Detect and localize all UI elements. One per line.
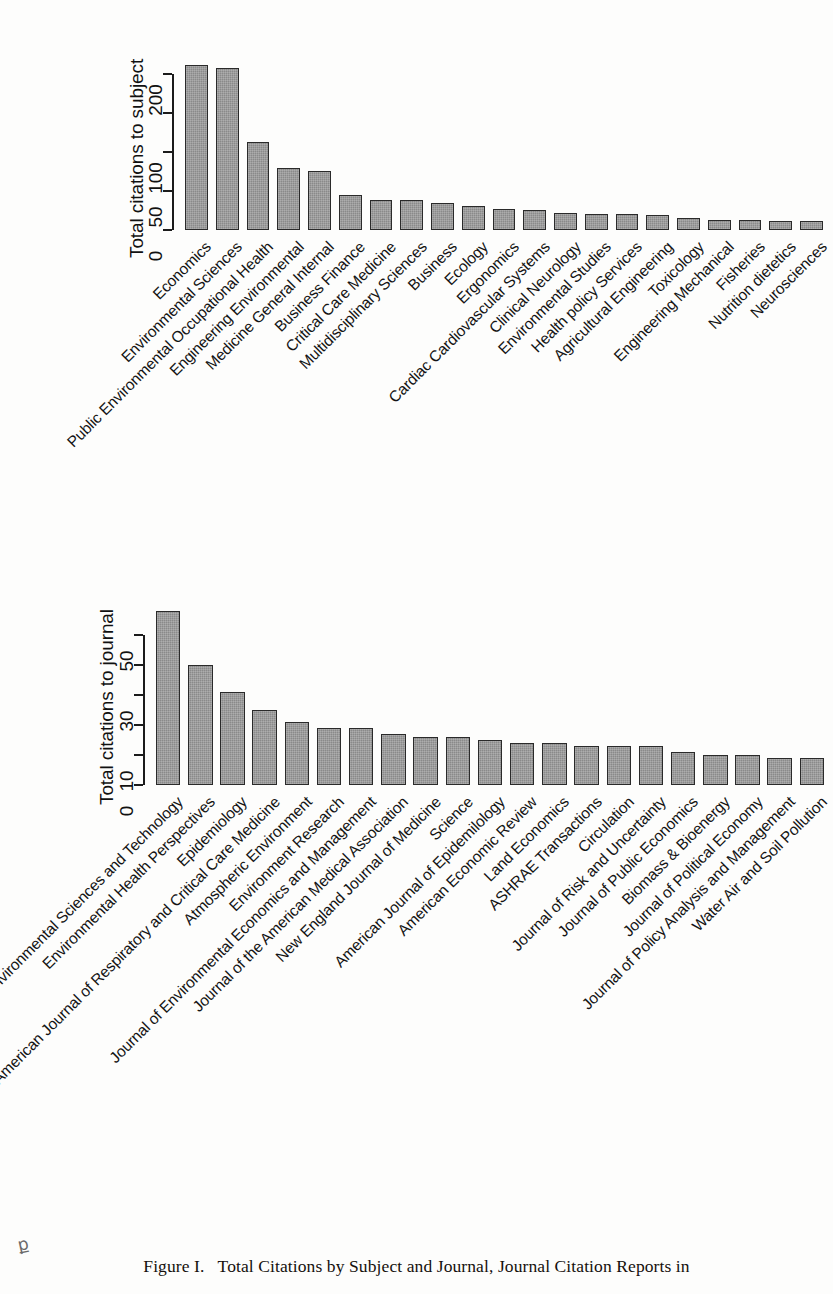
caption-figure-word: Figure <box>143 1256 189 1276</box>
figure-caption: Figure I. Total Citations by Subject and… <box>0 1256 833 1277</box>
corner-mark: ք <box>16 1233 31 1256</box>
chart-panel-subject: Total citations to subject 050100200 Eco… <box>0 0 833 560</box>
chart1-x-axis-labels: EconomicsEnvironmental SciencesPublic En… <box>0 0 833 400</box>
chart-panel-journal: Total citations to journal 0103050 Envir… <box>0 560 833 1220</box>
chart2-x-axis-labels: Environmental Sciences and TechnologyEnv… <box>0 560 833 1060</box>
caption-text: Total Citations by Subject and Journal, … <box>218 1256 690 1276</box>
caption-figure-number: I. <box>194 1256 204 1276</box>
figure-page: ք Total citations to subject 050100200 E… <box>0 0 833 1294</box>
